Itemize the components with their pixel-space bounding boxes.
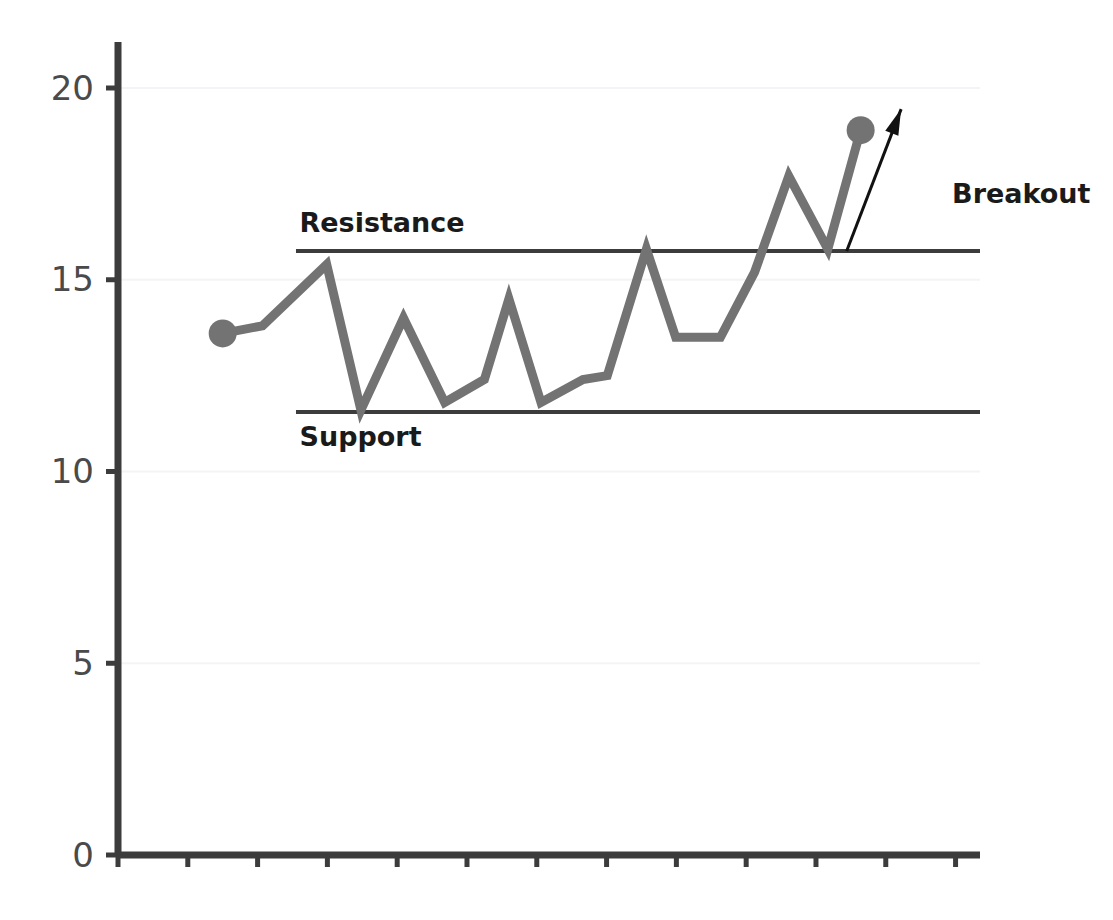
y-tick-label-10: 10 bbox=[51, 451, 94, 491]
price-chart: 05101520 Breakout ResistanceSupport bbox=[0, 0, 1113, 920]
marker-start-point bbox=[209, 319, 237, 347]
chart-container: 05101520 Breakout ResistanceSupport bbox=[0, 0, 1113, 920]
support-label: Support bbox=[299, 421, 421, 452]
chart-background bbox=[0, 0, 1113, 920]
y-tick-label-15: 15 bbox=[51, 259, 94, 299]
breakout-label: Breakout bbox=[952, 178, 1090, 209]
resistance-label: Resistance bbox=[299, 207, 464, 238]
y-tick-label-5: 5 bbox=[72, 643, 94, 683]
y-tick-label-20: 20 bbox=[51, 68, 94, 108]
marker-breakout-point bbox=[847, 116, 875, 144]
y-tick-label-0: 0 bbox=[72, 835, 94, 875]
